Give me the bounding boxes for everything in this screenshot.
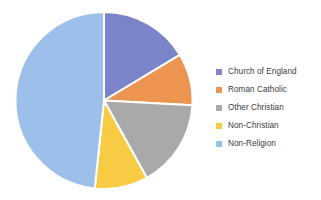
pie-plot-area [0,0,208,200]
legend-item-roman-catholic[interactable]: Roman Catholic [216,84,320,95]
legend-swatch-icon-non-christian [216,123,222,129]
legend-label-non-religion: Non-Religion [228,138,276,149]
pie-svg [0,0,208,200]
legend-label-other-christian: Other Christian [228,102,284,113]
legend-swatch-icon-roman-catholic [216,87,222,93]
legend-item-non-religion[interactable]: Non-Religion [216,138,320,149]
pie-slice-group [15,12,192,189]
legend-item-other-christian[interactable]: Other Christian [216,102,320,113]
legend-label-church-of-england: Church of England [228,66,297,77]
legend-swatch-icon-church-of-england [216,69,222,75]
legend-item-church-of-england[interactable]: Church of England [216,66,320,77]
chart-legend: Church of England Roman Catholic Other C… [216,66,320,149]
legend-item-non-christian[interactable]: Non-Christian [216,120,320,131]
legend-swatch-icon-other-christian [216,105,222,111]
legend-swatch-icon-non-religion [216,141,222,147]
legend-label-non-christian: Non-Christian [228,120,279,131]
pie-slice-non-religion[interactable] [15,12,104,189]
pie-chart-figure: Church of England Roman Catholic Other C… [0,0,321,200]
legend-label-roman-catholic: Roman Catholic [228,84,287,95]
